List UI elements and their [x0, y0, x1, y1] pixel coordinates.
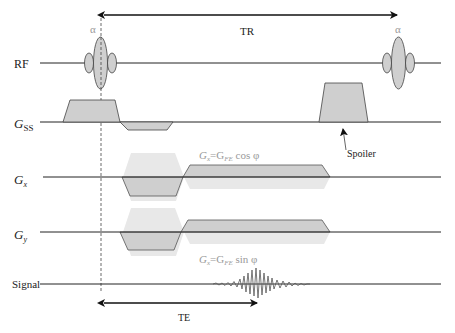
tr-label: TR — [240, 25, 255, 37]
gy-dephase-lobe — [120, 232, 181, 250]
gx-dephase-lobe — [122, 177, 183, 196]
pulse-sequence-diagram: TR RF α α GSS Spoiler Gx Gx=GFE cos φ Gy… — [0, 0, 455, 333]
signal-row-label: Signal — [12, 278, 40, 290]
echo-signal — [213, 268, 310, 298]
slice-rephase-lobe — [120, 122, 173, 130]
spoiler-gradient — [319, 83, 368, 122]
spoiler-label: Spoiler — [347, 148, 377, 159]
flip-angle-label-1: α — [90, 23, 96, 35]
gy-readout-light-envelope — [184, 232, 330, 244]
gx-readout-lobe — [183, 165, 330, 177]
gy-row-label: Gy — [14, 227, 27, 244]
slice-select-lobe — [63, 100, 120, 122]
spoiler-pointer — [343, 129, 346, 150]
gx-formula: Gx=GFE cos φ — [199, 149, 259, 163]
te-label: TE — [178, 312, 190, 323]
rf-row-label: RF — [14, 57, 29, 71]
gss-row-label: GSS — [14, 116, 33, 133]
gx-row-label: Gx — [14, 172, 27, 189]
rf-pulse-1 — [85, 37, 117, 89]
flip-angle-label-2: α — [395, 23, 401, 35]
gy-formula: Gx=GFE sin φ — [199, 253, 257, 267]
gy-readout-lobe — [181, 220, 330, 232]
rf-pulse-2 — [383, 37, 415, 89]
gx-readout-light-envelope — [184, 177, 330, 189]
